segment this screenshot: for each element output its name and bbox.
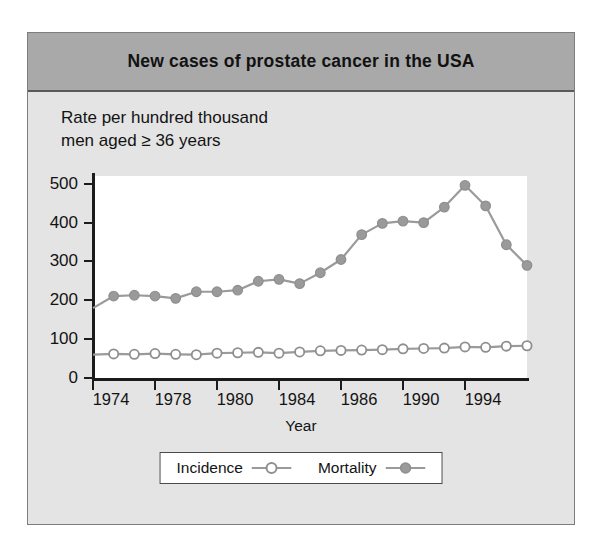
data-point bbox=[481, 343, 490, 352]
series-line bbox=[93, 185, 527, 308]
data-point bbox=[150, 291, 160, 301]
plot-wrapper: 0100200300400500 19741978198019841986199… bbox=[28, 33, 574, 524]
data-point bbox=[357, 230, 367, 240]
data-point bbox=[233, 348, 242, 357]
open-circle-marker-icon bbox=[252, 461, 292, 475]
data-point bbox=[460, 342, 469, 351]
data-point bbox=[274, 275, 284, 285]
chart-legend: Incidence Mortality bbox=[160, 452, 443, 484]
series-incidence bbox=[93, 341, 532, 359]
data-point bbox=[192, 287, 202, 297]
data-point bbox=[233, 285, 243, 295]
data-point bbox=[522, 261, 532, 271]
data-point bbox=[109, 291, 119, 301]
data-point bbox=[419, 344, 428, 353]
data-point bbox=[254, 276, 264, 286]
data-point bbox=[192, 350, 201, 359]
data-point bbox=[316, 346, 325, 355]
x-axis-title: Year bbox=[28, 417, 574, 435]
data-point bbox=[274, 349, 283, 358]
data-point bbox=[398, 216, 408, 226]
data-point bbox=[171, 350, 180, 359]
data-point bbox=[378, 219, 388, 229]
data-point bbox=[212, 349, 221, 358]
legend-item-incidence: Incidence bbox=[177, 459, 292, 477]
legend-label-mortality: Mortality bbox=[318, 459, 377, 477]
data-point bbox=[336, 255, 346, 265]
series-mortality bbox=[93, 181, 532, 309]
data-point bbox=[357, 345, 366, 354]
data-point bbox=[171, 294, 181, 304]
data-point bbox=[316, 268, 326, 278]
data-point bbox=[150, 349, 159, 358]
data-point bbox=[398, 344, 407, 353]
data-point bbox=[460, 181, 470, 191]
data-point bbox=[502, 240, 512, 250]
data-point bbox=[440, 202, 450, 212]
legend-item-mortality: Mortality bbox=[318, 459, 426, 477]
data-point bbox=[212, 287, 222, 297]
data-point bbox=[295, 347, 304, 356]
chart-figure: New cases of prostate cancer in the USA … bbox=[27, 32, 575, 525]
data-point bbox=[109, 349, 118, 358]
legend-label-incidence: Incidence bbox=[177, 459, 243, 477]
data-point bbox=[502, 342, 511, 351]
data-point bbox=[336, 346, 345, 355]
data-point bbox=[481, 201, 491, 211]
data-point bbox=[522, 341, 531, 350]
data-point bbox=[130, 290, 140, 300]
data-point bbox=[130, 350, 139, 359]
filled-circle-marker-icon bbox=[385, 461, 425, 475]
data-point bbox=[419, 218, 429, 228]
data-point bbox=[254, 348, 263, 357]
data-point bbox=[378, 345, 387, 354]
data-point bbox=[440, 343, 449, 352]
data-point bbox=[295, 279, 305, 289]
